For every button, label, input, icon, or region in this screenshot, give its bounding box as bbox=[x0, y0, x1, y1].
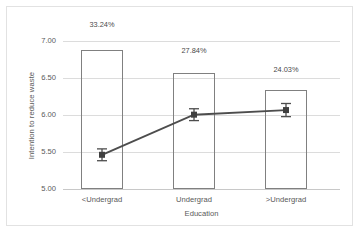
marker-undergrad[interactable] bbox=[191, 112, 197, 118]
y-tick-label-6-00: 6.00 bbox=[16, 111, 56, 119]
bar-data-label-undergrad-less: 33.24% bbox=[61, 21, 143, 29]
x-axis-title: Education bbox=[63, 209, 340, 218]
x-tick-label-undergrad-less: <Undergrad bbox=[61, 195, 143, 204]
marker-undergrad-more[interactable] bbox=[283, 107, 289, 113]
y-tick-label-5-00: 5.00 bbox=[16, 185, 56, 193]
y-tick-label-5-50: 5.50 bbox=[16, 148, 56, 156]
y-tick-label-6-50: 6.50 bbox=[16, 74, 56, 82]
plot-area bbox=[63, 41, 340, 189]
line-series bbox=[63, 41, 340, 189]
x-axis-line bbox=[63, 189, 340, 190]
x-tick-label-undergrad-more: >Undergrad bbox=[245, 195, 327, 204]
y-tick-label-7-00: 7.00 bbox=[16, 37, 56, 45]
x-tick-label-undergrad: Undergrad bbox=[153, 195, 235, 204]
marker-undergrad-less[interactable] bbox=[99, 152, 105, 158]
bar-data-label-undergrad-more: 24.03% bbox=[245, 66, 327, 74]
chart-figure: Intention to reduce waste 7.00 6.50 6.00… bbox=[0, 0, 360, 233]
bar-data-label-undergrad: 27.84% bbox=[153, 47, 235, 55]
